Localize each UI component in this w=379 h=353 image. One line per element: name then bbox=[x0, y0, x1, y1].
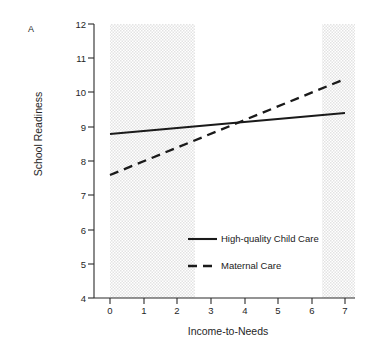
shaded-band-high-income bbox=[322, 24, 355, 298]
shaded-band-low-income bbox=[110, 24, 195, 298]
y-axis-ticks bbox=[88, 24, 94, 298]
x-axis-ticks bbox=[110, 298, 345, 304]
plot-area-svg bbox=[0, 0, 379, 353]
figure-panel-a: A School Readiness Income-to-Needs 12 11… bbox=[0, 0, 379, 353]
